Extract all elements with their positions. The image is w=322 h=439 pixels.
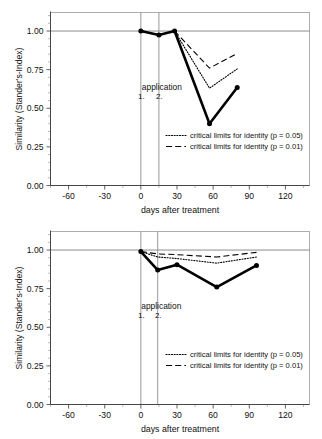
two-panel-line-chart-figure: 0.000.250.500.751.00 -60-300306090120 ap…	[0, 0, 322, 439]
data-series-top	[138, 29, 239, 127]
x-tick-label-top-0: -60	[62, 191, 75, 201]
chart-svg-top: 0.000.250.500.751.00 -60-300306090120 ap…	[0, 0, 322, 220]
x-tick-label-bottom-5: 90	[244, 410, 254, 420]
legend-label-p05-bottom: critical limits for identity (p = 0.05)	[190, 350, 303, 359]
data-point-top-1	[156, 32, 161, 37]
application-1-label-top: 1.	[138, 92, 145, 101]
series-critical-p01-bottom	[141, 252, 257, 257]
x-axis-title-top: days after treatment	[141, 205, 220, 215]
x-tick-label-bottom-0: -60	[62, 410, 75, 420]
data-point-top-4	[235, 85, 240, 90]
axis-titles-bottom: days after treatment Similarity (Stander…	[14, 266, 220, 434]
x-tick-label-top-1: -30	[98, 191, 111, 201]
y-tick-label-bottom-0: 0.00	[27, 400, 44, 410]
application-2-label-top: 2.	[156, 92, 163, 101]
y-axis-title-bottom: Similarity (Stander's-Index)	[14, 266, 24, 369]
y-tick-label-top-1: 0.25	[27, 142, 44, 152]
y-tick-label-top-0: 0.00	[27, 181, 44, 191]
application-2-label-bottom: 2.	[155, 311, 162, 320]
data-point-top-3	[207, 121, 212, 126]
x-tick-label-bottom-6: 120	[278, 410, 293, 420]
x-tick-label-top-2: 0	[138, 191, 143, 201]
y-tick-label-bottom-1: 0.25	[27, 361, 44, 371]
x-tick-label-bottom-2: 0	[138, 410, 143, 420]
chart-svg-bottom: 0.000.250.500.751.00 -60-300306090120 ap…	[0, 219, 322, 439]
annotation-application-bottom: application 1. 2.	[138, 301, 182, 321]
x-axis-bottom: -60-300306090120	[51, 405, 310, 420]
data-point-bottom-4	[254, 263, 259, 268]
series-similarity-top	[141, 31, 237, 124]
annotation-application-top: application 1. 2.	[138, 82, 182, 102]
chart-panel-bottom: 0.000.250.500.751.00 -60-300306090120 ap…	[0, 219, 322, 439]
data-series-bottom	[138, 249, 259, 290]
y-tick-label-top-4: 1.00	[27, 26, 44, 36]
x-axis-title-bottom: days after treatment	[141, 424, 220, 434]
y-axis-bottom: 0.000.250.500.751.00	[27, 231, 51, 410]
legend-label-p01-bottom: critical limits for identity (p = 0.01)	[190, 361, 303, 370]
y-tick-label-bottom-2: 0.50	[27, 322, 44, 332]
data-point-bottom-3	[214, 285, 219, 290]
y-axis-title-top: Similarity (Stander's-Index)	[14, 47, 24, 150]
series-critical-p01-top	[175, 31, 238, 68]
plot-frame-top	[51, 13, 310, 186]
data-point-top-0	[138, 29, 143, 34]
x-tick-label-bottom-3: 30	[172, 410, 182, 420]
y-tick-label-top-3: 0.75	[27, 65, 44, 75]
data-point-bottom-1	[155, 268, 160, 273]
application-1-label-bottom: 1.	[138, 311, 145, 320]
x-tick-label-top-3: 30	[172, 191, 182, 201]
y-tick-label-bottom-4: 1.00	[27, 245, 44, 255]
legend-label-p05-top: critical limits for identity (p = 0.05)	[190, 131, 303, 140]
legend-top: critical limits for identity (p = 0.05) …	[166, 131, 303, 151]
x-tick-label-top-5: 90	[244, 191, 254, 201]
axis-titles-top: days after treatment Similarity (Stander…	[14, 47, 220, 215]
legend-label-p01-top: critical limits for identity (p = 0.01)	[190, 142, 303, 151]
data-point-bottom-2	[174, 262, 179, 267]
plot-frame-bottom	[51, 232, 310, 405]
data-point-bottom-0	[138, 249, 143, 254]
application-label-top: application	[142, 82, 182, 92]
data-point-top-2	[172, 29, 177, 34]
x-axis-top: -60-300306090120	[51, 186, 310, 201]
y-tick-label-top-2: 0.50	[27, 103, 44, 113]
x-tick-label-top-6: 120	[278, 191, 293, 201]
x-tick-label-bottom-4: 60	[208, 410, 218, 420]
application-label-bottom: application	[141, 301, 181, 311]
y-tick-label-bottom-3: 0.75	[27, 284, 44, 294]
legend-bottom: critical limits for identity (p = 0.05) …	[166, 350, 303, 370]
series-critical-p05-bottom	[141, 252, 257, 264]
y-axis-top: 0.000.250.500.751.00	[27, 12, 51, 191]
x-tick-label-top-4: 60	[208, 191, 218, 201]
x-tick-label-bottom-1: -30	[98, 410, 111, 420]
chart-panel-top: 0.000.250.500.751.00 -60-300306090120 ap…	[0, 0, 322, 220]
